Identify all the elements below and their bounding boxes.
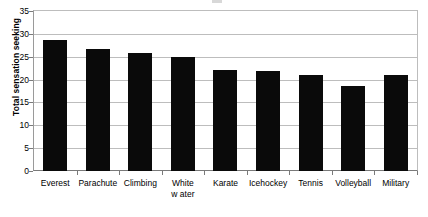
- y-tick-label: 30: [5, 29, 29, 39]
- y-tick-mark: [29, 102, 33, 103]
- bar-slot: [289, 11, 332, 171]
- x-tick-label: Icehockey: [247, 178, 290, 189]
- bar: [341, 86, 365, 171]
- y-tick-label: 10: [5, 120, 29, 130]
- y-tick-label: 0: [5, 166, 29, 176]
- x-tick-mark: [374, 171, 375, 175]
- x-tick-mark: [204, 171, 205, 175]
- y-tick-mark: [29, 34, 33, 35]
- x-tick-mark: [247, 171, 248, 175]
- y-tick-label: 15: [5, 97, 29, 107]
- y-tick-label: 35: [5, 6, 29, 16]
- x-tick-label: Everest: [34, 178, 77, 189]
- x-tick-label-line: Karate: [213, 178, 238, 188]
- bar-slot: [204, 11, 247, 171]
- bar-series: [34, 11, 417, 171]
- y-tick-label: 5: [5, 143, 29, 153]
- y-tick-label: 25: [5, 52, 29, 62]
- x-tick-label-line: w ater: [162, 189, 205, 200]
- bar-slot: [374, 11, 417, 171]
- x-tick-mark: [77, 171, 78, 175]
- x-tick-mark: [119, 171, 120, 175]
- y-tick-mark: [29, 171, 33, 172]
- x-tick-mark: [417, 171, 418, 175]
- x-tick-label: Whitew ater: [162, 178, 205, 200]
- bar-chart-figure: Total sensation seeking 05101520253035 E…: [0, 0, 428, 217]
- x-tick-mark: [332, 171, 333, 175]
- x-tick-mark: [289, 171, 290, 175]
- x-tick-label: Volleyball: [332, 178, 375, 189]
- bar: [43, 40, 67, 171]
- bar-slot: [34, 11, 77, 171]
- bar: [299, 75, 323, 171]
- x-tick-label-line: Tennis: [298, 178, 323, 188]
- x-tick-label: Karate: [204, 178, 247, 189]
- bar: [213, 70, 237, 171]
- x-tick-label-line: Volleyball: [335, 178, 371, 188]
- bar-slot: [77, 11, 120, 171]
- bar-slot: [119, 11, 162, 171]
- x-tick-label: Parachute: [77, 178, 120, 189]
- bar: [384, 75, 408, 171]
- cropped-title-sliver: [212, 0, 222, 3]
- x-tick-label-line: Parachute: [78, 178, 117, 188]
- x-tick-label-line: Icehockey: [249, 178, 287, 188]
- x-tick-label-line: Everest: [41, 178, 70, 188]
- x-tick-label-line: Climbing: [124, 178, 157, 188]
- bar: [86, 49, 110, 171]
- y-tick-mark: [29, 80, 33, 81]
- x-tick-label-line: White: [172, 178, 194, 188]
- bar-slot: [332, 11, 375, 171]
- bar: [128, 53, 152, 171]
- y-tick-label: 20: [5, 75, 29, 85]
- bar: [171, 57, 195, 171]
- bar-slot: [247, 11, 290, 171]
- bar: [256, 71, 280, 171]
- x-tick-label: Climbing: [119, 178, 162, 189]
- y-tick-mark: [29, 148, 33, 149]
- x-axis-labels: EverestParachuteClimbingWhitew aterKarat…: [34, 178, 417, 216]
- bar-slot: [162, 11, 205, 171]
- x-tick-mark: [162, 171, 163, 175]
- y-tick-mark: [29, 125, 33, 126]
- x-tick-label: Tennis: [289, 178, 332, 189]
- x-tick-label-line: Military: [382, 178, 409, 188]
- y-axis-title: Total sensation seeking: [11, 7, 21, 127]
- x-tick-label: Military: [374, 178, 417, 189]
- y-tick-mark: [29, 11, 33, 12]
- y-tick-mark: [29, 57, 33, 58]
